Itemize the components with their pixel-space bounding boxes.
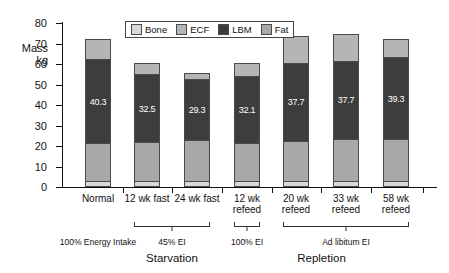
bar-segment-fat <box>86 144 110 182</box>
y-tick-label-80: 80 <box>35 18 47 29</box>
bar-segment-ecf <box>334 35 358 61</box>
y-tick-label-50: 50 <box>35 79 47 90</box>
bar-segment-ecf <box>135 64 159 75</box>
y-tick-40: 40 <box>56 105 62 106</box>
legend-item-lbm[interactable]: LBM <box>218 24 252 35</box>
y-tick-label-30: 30 <box>35 120 47 131</box>
plot-area: 01020304050607080 40.332.529.332.137.737… <box>62 22 437 188</box>
y-tick-label-60: 60 <box>35 59 47 70</box>
y-tick-label-10: 10 <box>35 161 47 172</box>
bar-6[interactable]: 39.3 <box>383 39 409 187</box>
bar-segment-lbm: 37.7 <box>284 64 308 142</box>
x-category-label-1: 12 wk fast <box>119 194 175 205</box>
legend-label: ECF <box>190 25 209 35</box>
bar-value-label: 39.3 <box>384 94 408 103</box>
y-tick-label-40: 40 <box>35 100 47 111</box>
x-tick-4 <box>321 188 322 193</box>
bracket--ei <box>134 222 210 229</box>
bar-segment-lbm: 29.3 <box>185 80 209 141</box>
bar-segment-bone <box>284 182 308 186</box>
y-tick-0: 0 <box>56 187 62 188</box>
y-tick-80: 80 <box>56 23 62 24</box>
bar-value-label: 37.7 <box>284 98 308 107</box>
legend-item-bone[interactable]: Bone <box>131 24 167 35</box>
x-tick-2 <box>222 188 223 193</box>
bar-segment-fat <box>284 142 308 182</box>
x-category-label-5: 33 wk refeed <box>318 194 374 215</box>
bar-segment-bone <box>86 182 110 186</box>
annotation-0: 100% Energy Intake <box>60 238 137 247</box>
y-tick-label-20: 20 <box>35 141 47 152</box>
y-tick-10: 10 <box>56 167 62 168</box>
x-category-label-6: 58 wk refeed <box>368 194 424 215</box>
y-tick-label-70: 70 <box>35 38 47 49</box>
annotation-2: 100% EI <box>231 238 263 247</box>
bar-0[interactable]: 40.3 <box>85 39 111 187</box>
y-tick-60: 60 <box>56 64 62 65</box>
bar-segment-ecf <box>185 74 209 80</box>
annotation-3: Ad libitum EI <box>322 238 370 247</box>
bar-segment-lbm: 32.1 <box>235 77 259 144</box>
y-tick-label-0: 0 <box>41 182 47 193</box>
bar-segment-ecf <box>235 64 259 77</box>
bar-value-label: 29.3 <box>185 105 209 114</box>
bar-segment-lbm: 40.3 <box>86 60 110 144</box>
x-category-label-4: 20 wk refeed <box>268 194 324 215</box>
bar-value-label: 32.5 <box>135 104 159 113</box>
phase-label-repletion: Repletion <box>297 252 346 264</box>
bar-value-label: 40.3 <box>86 97 110 106</box>
legend-swatch-bone-icon <box>131 24 142 35</box>
legend-item-ecf[interactable]: ECF <box>176 24 209 35</box>
x-category-label-0: Normal <box>70 194 126 205</box>
bar-segment-bone <box>185 182 209 186</box>
bar-segment-ecf <box>284 37 308 63</box>
bar-segment-lbm: 32.5 <box>135 75 159 143</box>
bar-segment-fat <box>135 143 159 182</box>
legend-swatch-lbm-icon <box>218 24 229 35</box>
bar-segment-fat <box>185 141 209 182</box>
bar-segment-bone <box>334 182 358 186</box>
x-category-label-3: 12 wk refeed <box>219 194 275 215</box>
chart-legend: BoneECFLBMFat <box>125 21 294 38</box>
bar-3[interactable]: 32.1 <box>234 63 260 187</box>
bar-segment-bone <box>384 182 408 186</box>
y-tick-20: 20 <box>56 146 62 147</box>
bar-value-label: 32.1 <box>235 106 259 115</box>
bar-segment-bone <box>235 182 259 186</box>
legend-swatch-ecf-icon <box>176 24 187 35</box>
bar-4[interactable]: 37.7 <box>283 36 309 187</box>
bar-5[interactable]: 37.7 <box>333 34 359 187</box>
legend-label: Fat <box>275 25 289 35</box>
legend-label: LBM <box>232 25 252 35</box>
annotation-1: 45% EI <box>158 238 185 247</box>
bar-segment-fat <box>235 144 259 182</box>
x-tick-3 <box>272 188 273 193</box>
legend-item-fat[interactable]: Fat <box>261 24 289 35</box>
bar-2[interactable]: 29.3 <box>184 73 210 187</box>
legend-label: Bone <box>145 25 167 35</box>
bar-segment-lbm: 39.3 <box>384 58 408 140</box>
phase-label-starvation: Starvation <box>146 252 198 264</box>
x-tick-5 <box>371 188 372 193</box>
bar-segment-fat <box>334 140 358 182</box>
bar-segment-ecf <box>86 40 110 61</box>
bar-segment-lbm: 37.7 <box>334 62 358 140</box>
stacked-bar-chart: Mass kg 01020304050607080 40.332.529.332… <box>0 0 449 273</box>
bracket-ad-libitum-ei <box>283 222 409 229</box>
bar-segment-fat <box>384 140 408 182</box>
bar-segment-ecf <box>384 40 408 59</box>
bar-segment-bone <box>135 182 159 186</box>
bar-1[interactable]: 32.5 <box>134 63 160 187</box>
y-tick-70: 70 <box>56 44 62 45</box>
bar-value-label: 37.7 <box>334 96 358 105</box>
y-tick-50: 50 <box>56 85 62 86</box>
x-tick-1 <box>172 188 173 193</box>
x-tick-6 <box>423 188 424 193</box>
bracket--ei <box>234 222 260 229</box>
y-tick-30: 30 <box>56 126 62 127</box>
legend-swatch-fat-icon <box>261 24 272 35</box>
x-category-label-2: 24 wk fast <box>169 194 225 205</box>
x-axis-line <box>62 187 437 188</box>
y-axis-line <box>62 22 63 188</box>
